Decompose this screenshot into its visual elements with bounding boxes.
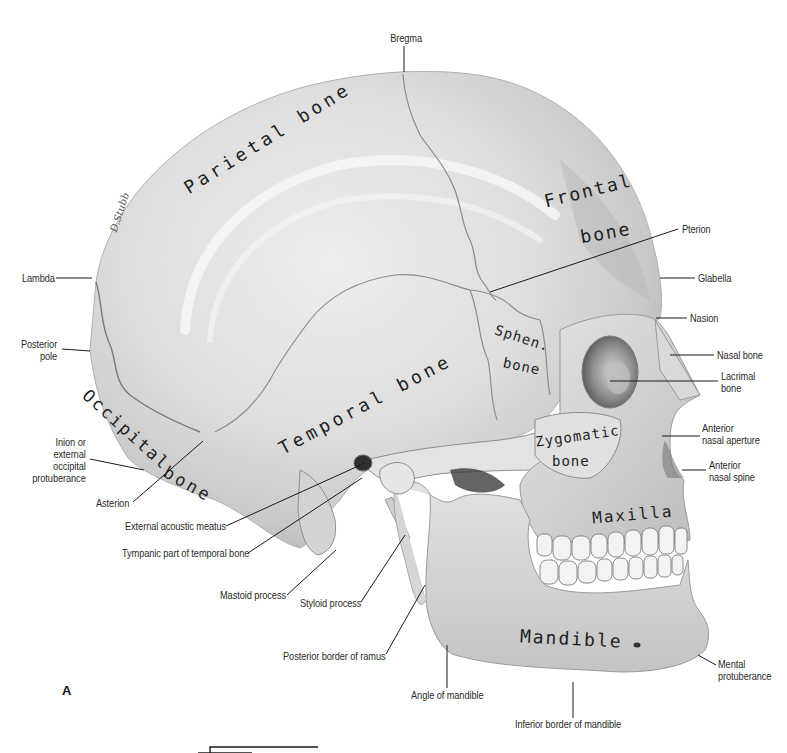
label-angle-of-mandible: Angle of mandible bbox=[411, 689, 483, 701]
label-anterior-nasal-spine: Anterior nasal spine bbox=[709, 459, 755, 483]
label-lacrimal-bone: Lacrimal bone bbox=[721, 370, 755, 394]
scale-bar bbox=[198, 747, 318, 753]
label-lacrimal-line2: bone bbox=[721, 382, 755, 394]
skull-lateral-diagram: Parietal bone Frontal bone Temporal bone… bbox=[0, 0, 787, 753]
label-inion: Inion or external occipital protuberance bbox=[33, 436, 86, 484]
label-pterion: Pterion bbox=[682, 223, 711, 235]
label-lambda: Lambda bbox=[22, 272, 55, 284]
label-aperture-line2: nasal aperture bbox=[702, 434, 760, 446]
label-inion-line1: Inion or bbox=[33, 436, 86, 448]
label-mental-line1: Mental bbox=[718, 658, 771, 670]
label-anterior-nasal-aperture: Anterior nasal aperture bbox=[702, 422, 760, 446]
label-nasal-bone: Nasal bone bbox=[717, 349, 763, 361]
label-aperture-line1: Anterior bbox=[702, 422, 760, 434]
label-external-acoustic-meatus: External acoustic meatus bbox=[125, 520, 226, 532]
label-styloid-process: Styloid process bbox=[300, 597, 361, 609]
label-spine-line1: Anterior bbox=[709, 459, 755, 471]
label-tympanic-part: Tympanic part of temporal bone bbox=[122, 547, 249, 559]
label-asterion: Asterion bbox=[96, 497, 129, 509]
label-bregma: Bregma bbox=[390, 32, 422, 44]
label-inion-line4: protuberance bbox=[33, 472, 86, 484]
label-lacrimal-line1: Lacrimal bbox=[721, 370, 755, 382]
label-posterior-border-of-ramus: Posterior border of ramus bbox=[283, 650, 386, 662]
label-mental-protuberance: Mental protuberance bbox=[718, 658, 771, 682]
bone-name-zygomatic-2: bone bbox=[552, 453, 590, 469]
label-inferior-border-of-mandible: Inferior border of mandible bbox=[515, 718, 621, 730]
label-pole-line2: pole bbox=[21, 350, 57, 362]
label-pole-line1: Posterior bbox=[21, 338, 57, 350]
label-inion-line3: occipital bbox=[33, 460, 86, 472]
label-mastoid-process: Mastoid process bbox=[220, 589, 286, 601]
label-nasion: Nasion bbox=[690, 312, 718, 324]
label-inion-line2: external bbox=[33, 448, 86, 460]
label-spine-line2: nasal spine bbox=[709, 471, 755, 483]
label-posterior-pole: Posterior pole bbox=[21, 338, 57, 362]
label-glabella: Glabella bbox=[698, 272, 731, 284]
label-mental-line2: protuberance bbox=[718, 670, 771, 682]
panel-letter: A bbox=[62, 683, 71, 698]
